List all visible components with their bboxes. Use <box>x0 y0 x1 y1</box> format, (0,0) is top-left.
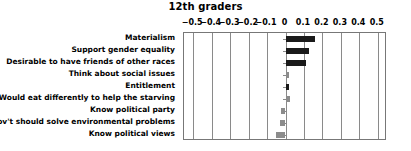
y-category-label: Desirable to have friends of other races <box>6 56 175 68</box>
axis-tickmark <box>283 63 286 64</box>
bar <box>286 36 316 42</box>
gridline <box>230 33 231 139</box>
x-tick-label: 0 <box>282 18 288 27</box>
bar <box>286 48 310 54</box>
gridline <box>341 33 342 139</box>
y-category-label: Materialism <box>125 32 175 44</box>
y-category-label: Entitlement <box>125 80 175 92</box>
axis-tickmark <box>283 99 286 100</box>
y-category-label: Know political party <box>90 104 175 116</box>
axis-tickmark <box>283 51 286 52</box>
x-axis-tick-labels: −0.5−0.4−0.3−0.2−0.100.10.20.30.40.5 <box>0 18 411 30</box>
x-tick-label: 0.2 <box>314 18 328 27</box>
chart-title: 12th graders <box>0 1 411 12</box>
axis-tickmark <box>283 87 286 88</box>
axis-tickmark <box>283 111 286 112</box>
y-category-label: Think about social issues <box>69 68 175 80</box>
gridline <box>212 33 213 139</box>
axis-tickmark <box>283 39 286 40</box>
bar <box>286 96 291 102</box>
gridline <box>249 33 250 139</box>
axis-tickmark <box>283 135 286 136</box>
bar <box>286 84 290 90</box>
y-category-label: Gov't should solve environmental problem… <box>0 116 175 128</box>
x-tick-label: 0.4 <box>351 18 365 27</box>
x-tick-label: −0.1 <box>256 18 277 27</box>
gridline <box>193 33 194 139</box>
x-tick-label: 0.3 <box>333 18 347 27</box>
axis-tickmark <box>283 123 286 124</box>
plot-area <box>183 32 386 140</box>
x-tick-label: 0.5 <box>370 18 384 27</box>
chart-container: 12th graders −0.5−0.4−0.3−0.2−0.100.10.2… <box>0 0 411 151</box>
y-category-label: Know political views <box>89 128 175 140</box>
gridline <box>267 33 268 139</box>
y-axis-category-labels: MaterialismSupport gender equalityDesira… <box>0 32 179 140</box>
bar <box>286 72 290 78</box>
x-tick-label: 0.1 <box>296 18 310 27</box>
axis-tickmark <box>283 75 286 76</box>
gridline <box>378 33 379 139</box>
gridline <box>359 33 360 139</box>
y-category-label: Would eat differently to help the starvi… <box>0 92 175 104</box>
y-category-label: Support gender equality <box>71 44 175 56</box>
bar <box>286 60 306 66</box>
gridline <box>322 33 323 139</box>
